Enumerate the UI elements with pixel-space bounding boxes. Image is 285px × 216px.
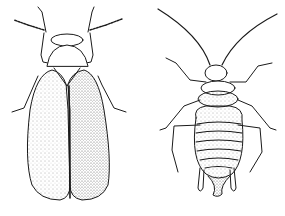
aphid-figure <box>158 9 277 196</box>
illustration-canvas <box>0 0 285 216</box>
insect-illustrations <box>0 0 285 216</box>
winged-insect-figure <box>12 7 126 200</box>
